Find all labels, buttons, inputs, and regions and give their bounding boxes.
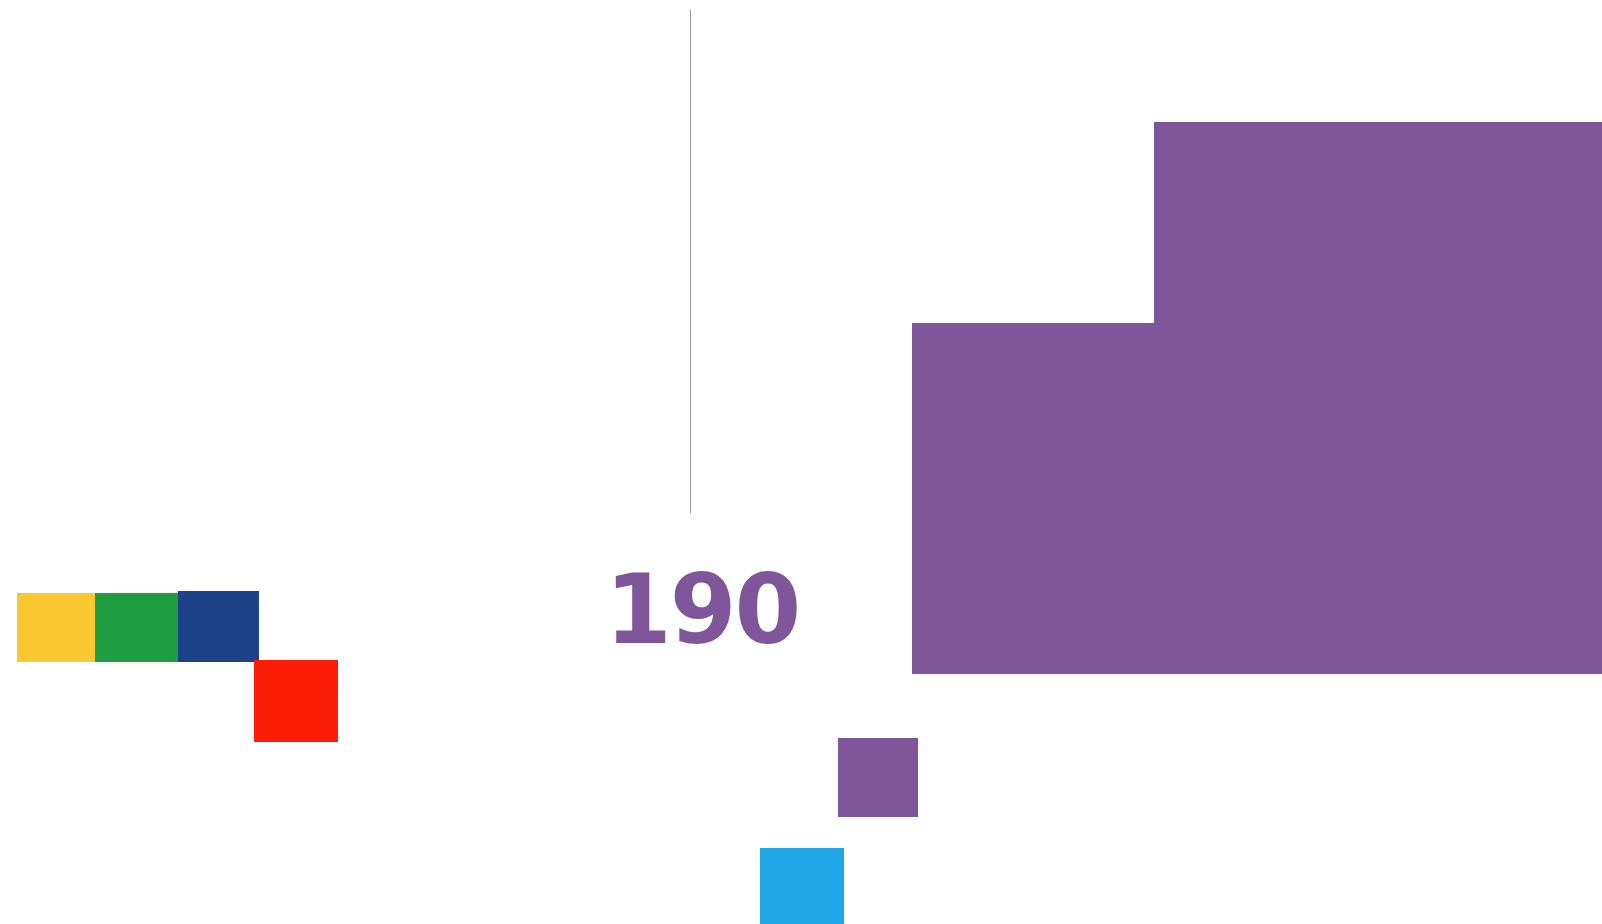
page-canvas: 190 — [0, 0, 1602, 924]
page-number: 190 — [605, 560, 805, 660]
purple-step-path — [912, 122, 1602, 674]
cyan-swatch — [760, 848, 844, 924]
vertical-rule — [690, 10, 691, 513]
blue-swatch — [178, 591, 259, 662]
purple-swatch — [838, 738, 918, 817]
purple-step-shape — [912, 122, 1602, 674]
red-swatch — [254, 660, 338, 742]
yellow-swatch — [17, 593, 95, 662]
purple-step-shape-svg — [912, 122, 1602, 674]
green-swatch — [95, 593, 178, 662]
